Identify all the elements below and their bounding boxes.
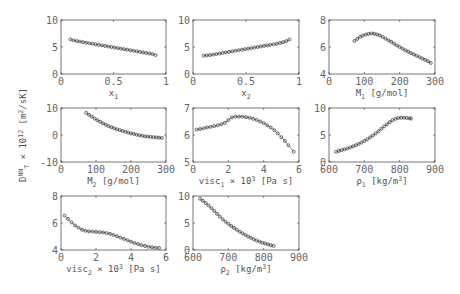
y-tick-label: 4 xyxy=(320,69,326,80)
axes-frame xyxy=(329,108,435,162)
figure-canvas: 00.510510x100.510510x20100200300468M1 [g… xyxy=(0,0,460,294)
y-tick-label: 10 xyxy=(46,103,58,114)
x-tick-label: 0 xyxy=(326,76,332,87)
x-axis-label: M2 [g/mol] xyxy=(87,176,140,189)
data-point-marker xyxy=(63,214,66,217)
y-tick-label: 8 xyxy=(320,15,326,26)
x-tick-label: 200 xyxy=(122,164,140,175)
y-tick-label: 6 xyxy=(52,218,58,229)
x-tick-label: 700 xyxy=(355,164,373,175)
data-point-marker xyxy=(85,111,88,114)
subplot-M1: 0100200300468M1 [g/mol] xyxy=(320,15,444,101)
data-line xyxy=(86,113,162,138)
data-line xyxy=(336,118,411,152)
subplot-M2: 0100200300-10010M2 [g/mol] xyxy=(40,103,175,189)
y-tick-label: 7 xyxy=(184,103,190,114)
axes-frame xyxy=(329,20,435,74)
y-tick-label: 10 xyxy=(314,103,326,114)
y-tick-label: 4 xyxy=(52,245,58,256)
y-tick-label: 8 xyxy=(52,191,58,202)
subplot-rho1: 6007008009000510ρ1 [kg/m3] xyxy=(314,103,444,189)
y-tick-label: 5 xyxy=(320,130,326,141)
x-tick-label: 4 xyxy=(261,164,267,175)
x-tick-label: 0 xyxy=(58,252,64,263)
y-tick-label: -10 xyxy=(40,157,58,168)
data-line xyxy=(65,216,160,248)
axes-frame xyxy=(61,108,166,162)
x-tick-label: 100 xyxy=(355,76,373,87)
y-tick-label: 5 xyxy=(52,42,58,53)
subplot-visc1: 0246567visc1 × 103 [Pa s] xyxy=(184,103,302,189)
x-axis-label: ρ1 [kg/m3] xyxy=(356,175,407,189)
x-tick-label: 100 xyxy=(87,164,105,175)
y-tick-label: 0 xyxy=(184,69,190,80)
x-tick-label: 0 xyxy=(190,76,196,87)
y-tick-label: 0 xyxy=(184,245,190,256)
y-tick-label: 10 xyxy=(178,15,190,26)
subplot-rho2: 6007008009000510ρ2 [kg/m3] xyxy=(178,191,308,277)
x-axis-label: visc2 × 103 [Pa s] xyxy=(66,263,161,277)
y-tick-label: 5 xyxy=(184,157,190,168)
x-tick-label: 6 xyxy=(163,252,169,263)
y-tick-label: 6 xyxy=(320,42,326,53)
x-axis-label: visc1 × 103 [Pa s] xyxy=(199,175,294,189)
x-tick-label: 200 xyxy=(391,76,409,87)
x-tick-label: 800 xyxy=(255,252,273,263)
x-tick-label: 6 xyxy=(296,164,302,175)
x-axis-label: ρ2 [kg/m3] xyxy=(220,263,271,277)
x-axis-label: x1 xyxy=(109,88,118,101)
subplot-x2: 00.510510x2 xyxy=(178,15,302,101)
axes-frame xyxy=(193,20,299,74)
x-tick-label: 900 xyxy=(290,252,308,263)
x-tick-label: 4 xyxy=(128,252,134,263)
x-tick-label: 800 xyxy=(391,164,409,175)
y-tick-label: 0 xyxy=(52,69,58,80)
x-tick-label: 300 xyxy=(426,76,444,87)
x-tick-label: 1 xyxy=(163,76,169,87)
x-tick-label: 2 xyxy=(93,252,99,263)
y-tick-label: 6 xyxy=(184,130,190,141)
x-tick-label: 0 xyxy=(190,164,196,175)
y-tick-label: 5 xyxy=(184,218,190,229)
axes-frame xyxy=(61,196,166,250)
y-tick-label: 10 xyxy=(178,191,190,202)
x-axis-label: M1 [g/mol] xyxy=(356,88,409,101)
x-tick-label: 0 xyxy=(58,76,64,87)
x-tick-label: 0.5 xyxy=(104,76,122,87)
x-tick-label: 2 xyxy=(225,164,231,175)
shared-y-axis-label: DNNT × 1012 [m2/sK] xyxy=(17,88,31,182)
data-point-marker xyxy=(292,150,295,153)
x-tick-label: 1 xyxy=(296,76,302,87)
subplot-x1: 00.510510x1 xyxy=(46,15,169,101)
x-tick-label: 300 xyxy=(157,164,175,175)
data-point-marker xyxy=(199,197,202,200)
axes-frame xyxy=(193,108,299,162)
x-axis-label: x2 xyxy=(241,88,250,101)
x-tick-label: 700 xyxy=(219,252,237,263)
y-tick-label: 5 xyxy=(184,42,190,53)
y-tick-label: 0 xyxy=(52,130,58,141)
subplot-visc2: 0246468visc2 × 103 [Pa s] xyxy=(52,191,169,277)
data-line xyxy=(204,39,290,55)
x-tick-label: 900 xyxy=(426,164,444,175)
y-tick-label: 10 xyxy=(46,15,58,26)
x-tick-label: 0.5 xyxy=(237,76,255,87)
data-line xyxy=(200,199,274,246)
y-tick-label: 0 xyxy=(320,157,326,168)
x-tick-label: 0 xyxy=(58,164,64,175)
